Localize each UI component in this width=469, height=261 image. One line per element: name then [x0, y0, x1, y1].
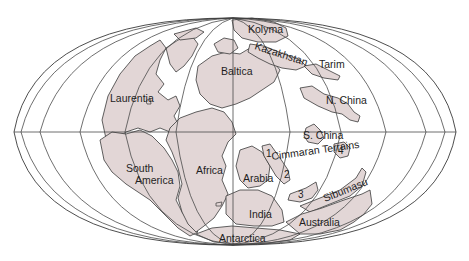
label-baltica: Baltica	[221, 65, 253, 77]
label-africa: Africa	[196, 164, 223, 176]
label-terrain-2: 2	[284, 169, 290, 180]
island	[216, 202, 222, 206]
label-n-china: N. China	[326, 94, 367, 106]
label-tarim: Tarim	[319, 58, 345, 70]
label-south-america-line1: South	[126, 162, 154, 174]
baltica-north-landmass	[214, 38, 238, 54]
label-arabia: Arabia	[243, 172, 274, 184]
greenland-fragment	[166, 36, 198, 72]
label-antarctica: Antarctica	[219, 232, 266, 244]
label-kolyma: Kolyma	[248, 23, 283, 35]
paleogeographic-world-map: Kolyma Kazakhstan Tarim Baltica Laurenti…	[0, 0, 469, 261]
label-india: India	[249, 208, 272, 220]
label-s-china: S. China	[303, 129, 343, 141]
label-terrain-3: 3	[298, 189, 304, 200]
label-australia: Australia	[299, 216, 340, 228]
label-south-america-line2: America	[135, 174, 174, 186]
label-laurentia: Laurentia	[110, 92, 154, 104]
